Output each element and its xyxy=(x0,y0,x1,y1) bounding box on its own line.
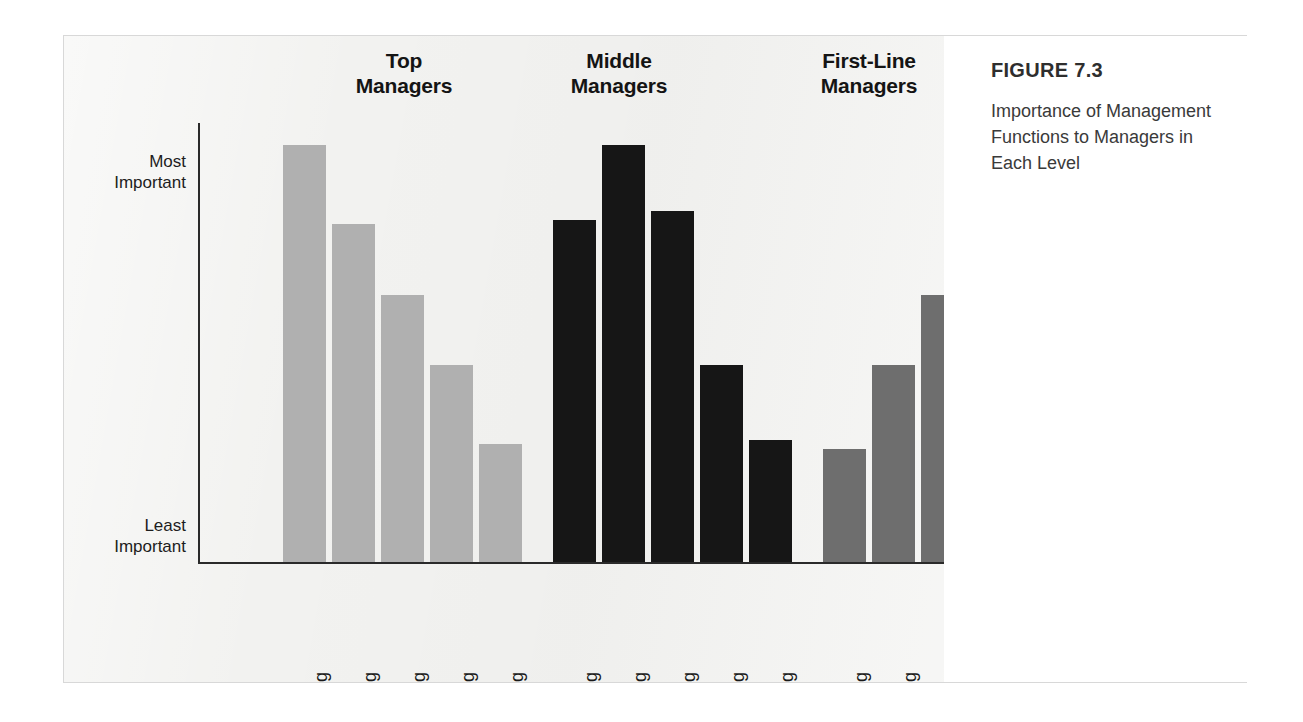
y-axis-line xyxy=(198,123,200,564)
group-header-middle-managers: Middle Managers xyxy=(524,48,714,98)
y-axis-label-most-important: Most Important xyxy=(66,151,186,193)
category-label-first-line-managers-organizing: Organizing xyxy=(901,672,919,682)
caption-panel: FIGURE 7.3 Importance of Management Func… xyxy=(967,36,1248,682)
group-header-first-line-managers: First-Line Managers xyxy=(764,48,944,98)
bar-top-managers-planning xyxy=(283,145,326,563)
category-axis-labels: PlanningOrganizingStaffingDirectingContr… xyxy=(200,568,944,680)
bar-top-managers-controlling xyxy=(479,444,522,563)
bar-middle-managers-organizing xyxy=(602,145,645,563)
category-label-top-managers-staffing: Staffing xyxy=(410,672,428,682)
bar-middle-managers-controlling xyxy=(749,440,792,563)
y-axis-label-least-important: Least Important xyxy=(66,515,186,557)
group-header-top-managers: Top Managers xyxy=(314,48,494,98)
category-label-middle-managers-staffing: Staffing xyxy=(680,672,698,682)
bar-top-managers-organizing xyxy=(332,224,375,563)
category-label-middle-managers-planning: Planning xyxy=(582,672,600,682)
category-label-top-managers-controlling: Controlling xyxy=(508,672,526,682)
category-label-top-managers-directing: Directing xyxy=(459,672,477,682)
category-label-top-managers-organizing: Organizing xyxy=(361,672,379,682)
figure-frame: Top Managers Middle Managers First-Line … xyxy=(63,35,1247,683)
x-axis-line xyxy=(198,562,944,564)
bar-top-managers-staffing xyxy=(381,295,424,563)
bar-middle-managers-directing xyxy=(700,365,743,563)
bar-first-line-managers-planning xyxy=(823,449,866,563)
bar-top-managers-directing xyxy=(430,365,473,563)
chart-panel: Top Managers Middle Managers First-Line … xyxy=(64,36,944,682)
figure-number-title: FIGURE 7.3 xyxy=(991,58,1222,82)
category-label-middle-managers-controlling: Controlling xyxy=(778,672,796,682)
category-label-first-line-managers-planning: Planning xyxy=(852,672,870,682)
category-label-middle-managers-organizing: Organizing xyxy=(631,672,649,682)
bar-middle-managers-staffing xyxy=(651,211,694,563)
category-label-middle-managers-directing: Directing xyxy=(729,672,747,682)
category-label-top-managers-planning: Planning xyxy=(312,672,330,682)
bar-first-line-managers-staffing xyxy=(921,295,944,563)
figure-caption-text: Importance of Management Functions to Ma… xyxy=(991,98,1222,176)
bar-middle-managers-planning xyxy=(553,220,596,563)
plot-area xyxy=(200,123,944,563)
bar-first-line-managers-organizing xyxy=(872,365,915,563)
